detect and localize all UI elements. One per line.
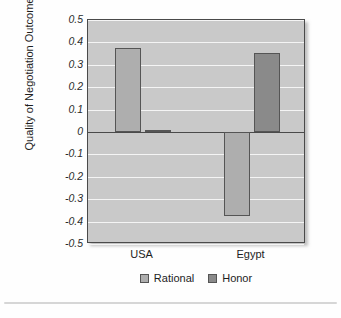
y-tick-label: 0.5	[68, 14, 83, 24]
y-tick-label: 0.1	[68, 104, 83, 114]
legend-entry-honor[interactable]: Honor	[208, 272, 252, 284]
bar-series-group	[88, 20, 304, 242]
y-axis-title: Quality of Negotiation Outcome	[23, 0, 35, 169]
y-tick-label: 0.4	[68, 36, 83, 46]
x-axis-category-labels: USAEgypt	[87, 248, 305, 264]
y-axis-tick-labels: 0.50.40.30.20.10-0.1-0.2-0.3-0.4-0.5	[47, 19, 83, 243]
bar-usa-rational	[115, 48, 141, 132]
legend-label: Honor	[222, 272, 252, 284]
legend-swatch-rational-icon	[140, 274, 149, 283]
plot-area	[87, 19, 305, 243]
bar-usa-honor	[145, 130, 171, 132]
y-tick-label: -0.5	[65, 238, 83, 248]
legend-swatch-honor-icon	[208, 274, 217, 283]
gridline	[88, 244, 304, 245]
y-tick-label: -0.1	[65, 148, 83, 158]
bar-egypt-honor	[254, 53, 280, 132]
bar-egypt-rational	[224, 132, 250, 216]
bottom-divider	[4, 302, 337, 304]
y-tick-label: -0.2	[65, 171, 83, 181]
y-tick-label: -0.3	[65, 193, 83, 203]
chart-figure: Quality of Negotiation Outcome 0.50.40.3…	[0, 0, 341, 318]
y-tick-label: 0	[77, 126, 83, 136]
legend-label: Rational	[154, 272, 194, 284]
x-tick-label-egypt: Egypt	[236, 248, 264, 260]
y-tick-label: -0.4	[65, 216, 83, 226]
x-tick-label-usa: USA	[130, 248, 153, 260]
chart-legend: RationalHonor	[87, 272, 305, 284]
y-tick-label: 0.2	[68, 81, 83, 91]
y-tick-label: 0.3	[68, 59, 83, 69]
legend-entry-rational[interactable]: Rational	[140, 272, 194, 284]
